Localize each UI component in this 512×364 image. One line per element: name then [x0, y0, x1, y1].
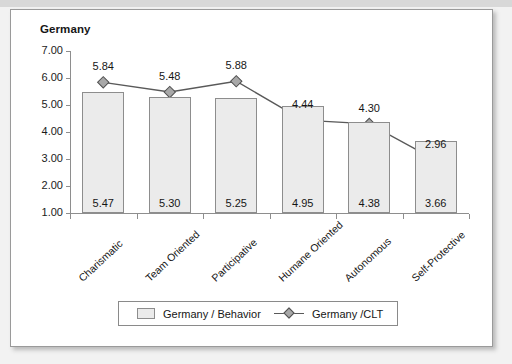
y-axis-tick-label: 6.00 — [23, 71, 63, 83]
clt-diamond-marker[interactable] — [98, 77, 109, 88]
clt-value-label: 4.44 — [273, 98, 333, 110]
clt-value-label: 5.84 — [73, 60, 133, 72]
y-axis-tick-mark — [66, 159, 71, 160]
bar[interactable] — [82, 92, 124, 213]
legend-item-label: Germany /CLT — [312, 308, 383, 320]
clt-value-label: 2.96 — [406, 138, 466, 150]
legend-item-label: Germany / Behavior — [163, 308, 261, 320]
y-axis-tick-label: 5.00 — [23, 98, 63, 110]
bar-value-label: 5.47 — [73, 197, 133, 209]
x-axis-tick-mark — [137, 214, 138, 219]
legend-item-behavior[interactable]: Germany / Behavior — [137, 302, 261, 325]
x-axis-tick-mark — [270, 214, 271, 219]
y-axis-tick-mark — [66, 186, 71, 187]
chart-card: Germany 7.006.005.004.003.002.001.005.47… — [10, 9, 493, 347]
bar-value-label: 4.95 — [273, 197, 333, 209]
y-axis-tick-mark — [66, 132, 71, 133]
y-axis-tick-mark — [66, 51, 71, 52]
y-axis-tick-label: 4.00 — [23, 125, 63, 137]
y-axis-tick-label: 3.00 — [23, 152, 63, 164]
x-axis-category-label: Self-Protective — [409, 228, 467, 283]
bar-value-label: 5.25 — [206, 197, 266, 209]
clt-value-label: 5.48 — [140, 70, 200, 82]
bar-value-label: 3.66 — [406, 197, 466, 209]
plot-area: 7.006.005.004.003.002.001.005.47Charisma… — [11, 10, 494, 348]
x-axis-category-label: Participative — [209, 236, 259, 284]
y-axis-tick-label: 2.00 — [23, 179, 63, 191]
chart-legend: Germany / Behavior Germany /CLT — [118, 301, 398, 326]
bar-value-label: 4.38 — [339, 197, 399, 209]
x-axis-tick-mark — [469, 214, 470, 219]
y-axis-tick-mark — [66, 78, 71, 79]
scan-edge-strip — [0, 0, 512, 7]
clt-diamond-marker[interactable] — [231, 76, 242, 87]
x-axis-category-label: Charismatic — [76, 237, 125, 284]
bar[interactable] — [149, 97, 191, 213]
x-axis-tick-mark — [403, 214, 404, 219]
x-axis-category-label: Team Oriented — [143, 228, 202, 284]
y-axis-tick-label: 7.00 — [23, 44, 63, 56]
x-axis-tick-mark — [70, 214, 71, 219]
bar[interactable] — [215, 98, 257, 213]
bar-value-label: 5.30 — [140, 197, 200, 209]
y-axis-tick-label: 1.00 — [23, 206, 63, 218]
x-axis-tick-mark — [203, 214, 204, 219]
scanned-page-background: Germany 7.006.005.004.003.002.001.005.47… — [0, 0, 512, 364]
bar-swatch-icon — [137, 308, 155, 319]
clt-value-label: 5.88 — [206, 59, 266, 71]
clt-value-label: 4.30 — [339, 102, 399, 114]
x-axis-tick-mark — [336, 214, 337, 219]
legend-item-clt[interactable]: Germany /CLT — [274, 302, 383, 325]
line-diamond-icon — [274, 308, 304, 319]
x-axis-category-label: Autonomous — [342, 235, 393, 284]
y-axis-tick-mark — [66, 105, 71, 106]
x-axis-category-label: Humane Oriented — [276, 218, 345, 283]
